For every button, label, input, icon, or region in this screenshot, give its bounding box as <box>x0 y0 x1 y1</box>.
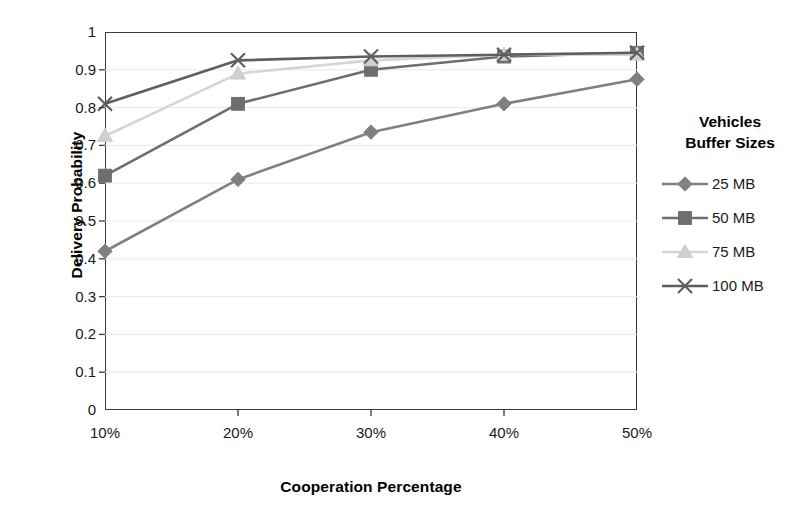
y-tick-label: 0.7 <box>52 137 96 152</box>
x-tick-label: 10% <box>65 424 145 441</box>
y-tick-label: 0.8 <box>52 100 96 115</box>
x-tick-label: 30% <box>331 424 411 441</box>
data-point-marker <box>630 72 644 86</box>
legend-title-line-2: Buffer Sizes <box>655 133 805 154</box>
y-tick-label: 1 <box>52 24 96 39</box>
plot-area <box>105 32 637 410</box>
y-tick-label: 0.3 <box>52 289 96 304</box>
y-tick-label: 0 <box>52 402 96 417</box>
legend-item-label: 75 MB <box>709 243 755 260</box>
y-tick-label: 0.5 <box>52 213 96 228</box>
x-axis-title: Cooperation Percentage <box>105 478 637 496</box>
y-tick-label: 0.9 <box>52 62 96 77</box>
data-point-marker <box>99 169 112 182</box>
legend-item[interactable]: 25 MB <box>655 167 805 201</box>
legend-marker-diamond-icon <box>661 174 709 194</box>
data-point-marker <box>232 97 245 110</box>
y-tick-label: 0.1 <box>52 364 96 379</box>
legend-marker-square-icon <box>661 208 709 228</box>
data-point-marker <box>497 97 511 111</box>
x-tick-label: 20% <box>198 424 278 441</box>
x-tick-label: 50% <box>597 424 677 441</box>
y-tick-label: 0.4 <box>52 251 96 266</box>
series-50-mb <box>99 46 644 182</box>
data-point-marker <box>231 172 245 186</box>
legend-item[interactable]: 100 MB <box>655 269 805 303</box>
legend-item[interactable]: 75 MB <box>655 235 805 269</box>
data-point-marker <box>98 244 112 258</box>
legend-item-label: 50 MB <box>709 209 755 226</box>
legend-items: 25 MB50 MB75 MB100 MB <box>655 167 805 303</box>
legend-marker-triangle-icon <box>661 242 709 262</box>
y-tick-label: 0.6 <box>52 175 96 190</box>
legend-item-label: 25 MB <box>709 175 755 192</box>
plot-series-layer <box>105 32 637 410</box>
legend-title: Vehicles Buffer Sizes <box>655 112 805 154</box>
legend-marker-x-icon <box>661 276 709 296</box>
data-point-marker <box>98 97 112 111</box>
chart-legend: Vehicles Buffer Sizes 25 MB50 MB75 MB100… <box>655 112 805 303</box>
y-tick-label: 0.2 <box>52 326 96 341</box>
legend-item[interactable]: 50 MB <box>655 201 805 235</box>
chart-figure: Delivery Probability 00.10.20.30.40.50.6… <box>0 0 808 525</box>
data-point-marker <box>364 125 378 139</box>
x-tick-label: 40% <box>464 424 544 441</box>
legend-item-label: 100 MB <box>709 277 764 294</box>
legend-title-line-1: Vehicles <box>655 112 805 133</box>
